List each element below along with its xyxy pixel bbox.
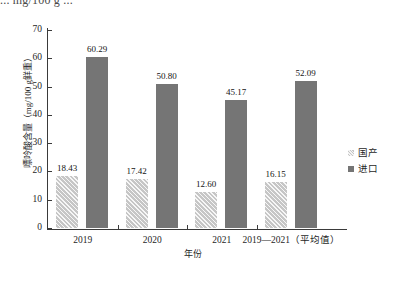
bar-value-label: 12.60 <box>183 180 229 189</box>
y-axis-tick-label: 0 <box>2 223 42 233</box>
bar-chart: 嘌呤酸含量（mg/100 g鲜重） 706050403020100 18.436… <box>0 14 398 282</box>
legend-item-domestic[interactable]: 国产 <box>348 145 398 161</box>
bar-value-label: 18.43 <box>44 164 90 173</box>
y-axis-tick-label: 40 <box>2 110 42 120</box>
x-axis-line <box>47 229 347 230</box>
bar-value-label: 52.09 <box>283 69 329 78</box>
chart-legend: 国产进口 <box>348 145 398 177</box>
y-axis-tick-label: 50 <box>2 82 42 92</box>
y-axis-tick-label: 30 <box>2 138 42 148</box>
legend-label: 国产 <box>358 148 378 158</box>
bar-imported[interactable] <box>225 100 247 228</box>
plot-area: 18.4360.2917.4250.8012.6045.1716.1552.09 <box>48 30 326 228</box>
bar-value-label: 17.42 <box>114 167 160 176</box>
bar-domestic[interactable] <box>126 179 148 228</box>
bar-group: 16.1552.09 <box>257 30 327 228</box>
bar-group: 18.4360.29 <box>48 30 118 228</box>
bar-group: 12.6045.17 <box>187 30 257 228</box>
bar-domestic[interactable] <box>56 176 78 228</box>
legend-swatch-icon <box>348 150 354 156</box>
bar-domestic[interactable] <box>265 182 287 228</box>
y-axis-tick <box>48 228 52 229</box>
y-axis-tick-label: 60 <box>2 53 42 63</box>
y-axis-tick-label: 10 <box>2 195 42 205</box>
x-axis-tick <box>118 225 119 230</box>
x-axis-tick <box>187 225 188 230</box>
bar-domestic[interactable] <box>195 192 217 228</box>
bar-value-label: 50.80 <box>144 72 190 81</box>
bar-imported[interactable] <box>295 81 317 228</box>
legend-item-imported[interactable]: 进口 <box>348 161 398 177</box>
bar-imported[interactable] <box>86 57 108 228</box>
x-axis-title: 年份 <box>148 250 238 259</box>
legend-swatch-icon <box>348 166 354 172</box>
bar-value-label: 60.29 <box>74 45 120 54</box>
bar-value-label: 45.17 <box>213 88 259 97</box>
bar-group: 17.4250.80 <box>118 30 188 228</box>
top-cutoff-caption: ... mg/100 g ... <box>0 0 240 9</box>
legend-label: 进口 <box>358 164 378 174</box>
bar-imported[interactable] <box>156 84 178 228</box>
y-axis-tick-label: 20 <box>2 166 42 176</box>
x-axis-group-label: 2019—2021（平均值） <box>237 235 347 246</box>
bar-value-label: 16.15 <box>253 170 299 179</box>
y-axis-tick-label: 70 <box>2 25 42 35</box>
x-axis-tick <box>257 225 258 230</box>
